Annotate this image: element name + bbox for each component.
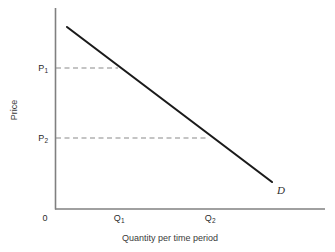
y-tick-label-p2: P2 [38,134,48,143]
demand-curve-line [67,27,272,182]
q1-subscript: 1 [121,217,125,224]
p1-subscript: 1 [44,67,48,74]
q2-subscript: 2 [212,217,216,224]
y-axis-title: Price [10,100,19,121]
x-tick-label-q1: Q1 [114,214,125,223]
origin-label: 0 [42,214,47,223]
y-tick-label-p1: P1 [38,64,48,73]
plot-area [0,0,335,252]
q2-base: Q [205,213,212,223]
demand-curve-label: D [277,185,285,196]
p2-subscript: 2 [44,137,48,144]
x-tick-label-q2: Q2 [205,214,216,223]
q1-base: Q [114,213,121,223]
demand-curve-figure: Price Quantity per time period 0 P1 P2 Q… [0,0,335,252]
x-axis-title: Quantity per time period [122,234,218,243]
